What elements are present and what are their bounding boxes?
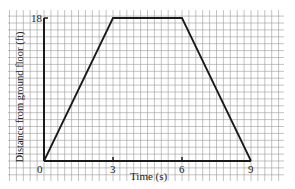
x-tick-label-9: 9 — [248, 164, 254, 175]
y-tick-label-18: 18 — [31, 13, 42, 24]
chart-canvas — [0, 0, 295, 189]
y-axis-label: Distance from ground floor (ft) — [14, 31, 25, 162]
x-axis-label: Time (s) — [130, 171, 167, 182]
x-tick-label-0: 0 — [37, 164, 43, 175]
x-tick-label-6: 6 — [179, 164, 185, 175]
grid-lines — [8, 10, 284, 181]
x-tick-label-3: 3 — [110, 164, 116, 175]
